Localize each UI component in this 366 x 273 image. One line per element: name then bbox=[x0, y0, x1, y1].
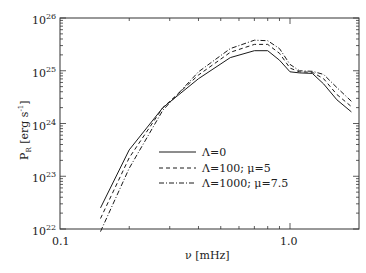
axis-ticks bbox=[60, 18, 359, 229]
y-tick-label: 1026 bbox=[32, 12, 56, 27]
series-line-2 bbox=[101, 40, 352, 231]
y-tick-label: 1023 bbox=[32, 170, 56, 185]
y-label-unit-exp: -1 bbox=[17, 105, 25, 112]
y-tick-label: 1024 bbox=[32, 118, 56, 133]
legend-label-1: Λ=100; μ=5 bbox=[201, 162, 271, 175]
plot-frame bbox=[60, 18, 359, 229]
y-tick-labels: 10221023102410251026 bbox=[32, 12, 56, 238]
y-label-unit: [erg s bbox=[18, 111, 31, 147]
y-tick-label: 1025 bbox=[32, 65, 56, 80]
x-axis-label: ν [mHz] bbox=[185, 249, 230, 262]
series-line-1 bbox=[101, 44, 352, 218]
data-series bbox=[101, 40, 352, 231]
x-tick-label-1.0: 1.0 bbox=[280, 235, 298, 248]
chart: 10221023102410251026 0.1 1.0 ν [mHz] PR … bbox=[0, 0, 366, 273]
y-axis-label: PR [erg s-1] bbox=[17, 100, 33, 160]
legend: Λ=0 Λ=100; μ=5 Λ=1000; μ=7.5 bbox=[159, 146, 288, 190]
x-tick-label-0.1: 0.1 bbox=[52, 235, 70, 248]
legend-label-2: Λ=1000; μ=7.5 bbox=[201, 177, 288, 190]
y-label-close: ] bbox=[18, 100, 31, 104]
legend-label-0: Λ=0 bbox=[201, 146, 226, 159]
